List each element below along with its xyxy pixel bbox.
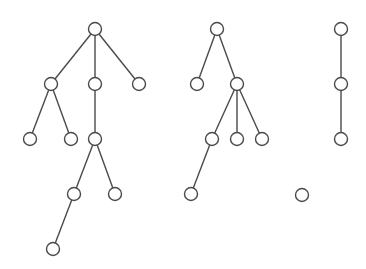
edge-b-e [30,84,51,139]
node-k [211,23,224,36]
node-r [335,23,348,36]
node-g [89,133,102,146]
forest-diagram [0,0,366,269]
edge-g-i [95,139,115,194]
node-f [65,133,78,146]
node-i [109,188,122,201]
edge-g-h [74,139,95,194]
node-q [185,188,198,201]
node-m [231,78,244,91]
node-p [256,133,269,146]
edge-a-d [95,29,139,84]
node-t [335,133,348,146]
edge-k-l [197,29,217,84]
edge-m-p [237,84,262,139]
node-d [133,78,146,91]
node-b [45,78,58,91]
edge-h-j [53,194,74,249]
node-h [68,188,81,201]
node-e [24,133,37,146]
node-o [231,133,244,146]
edge-m-n [212,84,237,139]
node-l [191,78,204,91]
node-a [89,23,102,36]
edge-b-f [51,84,71,139]
node-s [335,78,348,91]
edge-a-b [51,29,95,84]
node-n [206,133,219,146]
edge-n-q [191,139,212,194]
node-c [89,78,102,91]
node-u [296,189,309,202]
edge-k-m [217,29,237,84]
node-j [47,243,60,256]
